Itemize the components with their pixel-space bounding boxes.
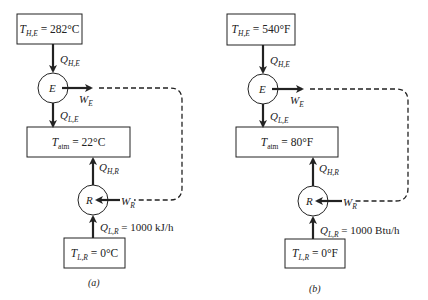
w-r-label-a: WR (121, 196, 135, 210)
q-h-r-label-b: QH,R (319, 163, 339, 177)
atmosphere-label-a: Tatm = 22°C (27, 137, 130, 151)
value: = 282°C (41, 23, 80, 35)
w-e-label-a: WE (79, 94, 93, 108)
subscript: H,E (68, 59, 80, 68)
q-l-r-label-a: QL,R = 1000 kJ/h (100, 222, 173, 236)
value: = 0°F (312, 247, 338, 259)
subscript: L,R (298, 253, 309, 262)
q-l-e-label-a: QL,E (60, 110, 79, 124)
q-l-r-label-b: QL,R = 1000 Btu/h (320, 225, 400, 239)
caption-a: (a) (88, 277, 100, 288)
symbol: Q (270, 54, 278, 66)
subscript: L,E (278, 116, 289, 125)
subscript: atm (267, 142, 278, 151)
atmosphere-label-b: Tatm = 80°F (236, 137, 338, 151)
symbol: Q (60, 53, 68, 65)
value: = 1000 Btu/h (341, 224, 399, 236)
cold-reservoir-label-b: TL,R = 0°F (285, 248, 345, 262)
subscript: H,E (278, 60, 290, 69)
subscript: H,R (327, 168, 339, 177)
subscript: L,R (108, 227, 119, 236)
symbol: Q (319, 162, 327, 174)
subscript: H,R (107, 167, 119, 176)
engine-label-a: E (49, 83, 56, 94)
hot-reservoir-label-b: TH,E = 540°F (227, 24, 295, 38)
cold-reservoir-label-a: TL,R = 0°C (64, 248, 125, 262)
symbol: Q (60, 109, 68, 121)
subscript: L,R (328, 230, 339, 239)
refrigerator-label-a: R (86, 195, 93, 206)
engine-label-b: E (259, 84, 266, 95)
subscript: L,R (77, 253, 88, 262)
value: = 80°F (281, 136, 313, 148)
symbol: W (343, 196, 352, 208)
subscript: E (88, 99, 93, 108)
refrigerator-label-b: R (306, 196, 313, 207)
hot-reservoir-label-a: TH,E = 282°C (17, 24, 82, 38)
value: = 1000 kJ/h (121, 221, 173, 233)
q-l-e-label-b: QL,E (270, 111, 289, 125)
subscript: L,E (68, 115, 79, 124)
subscript: E (299, 100, 304, 109)
caption-b: (b) (309, 283, 321, 294)
subscript: R (352, 202, 357, 211)
symbol: Q (99, 161, 107, 173)
value: = 0°C (91, 247, 118, 259)
q-h-e-label-a: QH,E (60, 54, 80, 68)
symbol: Q (100, 221, 108, 233)
subscript: H,E (238, 29, 250, 38)
symbol: W (79, 93, 88, 105)
subscript: atm (58, 142, 69, 151)
subscript: R (130, 201, 135, 210)
subscript: H,E (26, 29, 38, 38)
symbol: Q (270, 110, 278, 122)
q-h-e-label-b: QH,E (270, 55, 290, 69)
w-e-label-b: WE (290, 95, 304, 109)
symbol: Q (320, 224, 328, 236)
w-r-label-b: WR (343, 197, 357, 211)
symbol: W (121, 195, 130, 207)
q-h-r-label-a: QH,R (99, 162, 119, 176)
value: = 540°F (253, 23, 291, 35)
value: = 22°C (72, 136, 105, 148)
symbol: W (290, 94, 299, 106)
